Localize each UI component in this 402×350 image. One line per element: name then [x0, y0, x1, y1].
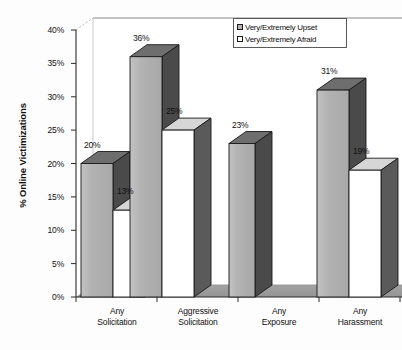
legend-item-afraid: Very/Extremely Afraid — [237, 33, 343, 45]
category-label-any-exposure: Any Exposure — [238, 306, 320, 327]
category-line-1: Any — [319, 306, 401, 317]
legend-swatch-empty-white-square-icon — [237, 36, 243, 42]
chart-legend: Very/Extremely Upset Very/Extremely Afra… — [233, 18, 347, 48]
category-label-any-harassment: Any Harassment — [319, 306, 401, 327]
legend-swatch-filled-gray-square-icon — [237, 24, 243, 30]
category-label-any-solicitation: Any Solicitation — [76, 306, 158, 327]
category-line-2: Solicitation — [157, 317, 239, 328]
x-axis-category-labels: Any Solicitation Aggressive Solicitation… — [0, 0, 402, 350]
category-line-1: Any — [238, 306, 320, 317]
legend-label-upset: Very/Extremely Upset — [245, 23, 317, 32]
category-label-aggressive-solicitation: Aggressive Solicitation — [157, 306, 239, 327]
legend-label-afraid: Very/Extremely Afraid — [245, 35, 316, 44]
chart-container: % Online Victimizations 40% 35% 30% 25% … — [0, 0, 402, 350]
category-line-1: Aggressive — [157, 306, 239, 317]
legend-item-upset: Very/Extremely Upset — [237, 21, 343, 33]
category-line-1: Any — [76, 306, 158, 317]
category-line-2: Harassment — [319, 317, 401, 328]
category-line-2: Exposure — [238, 317, 320, 328]
category-line-2: Solicitation — [76, 317, 158, 328]
